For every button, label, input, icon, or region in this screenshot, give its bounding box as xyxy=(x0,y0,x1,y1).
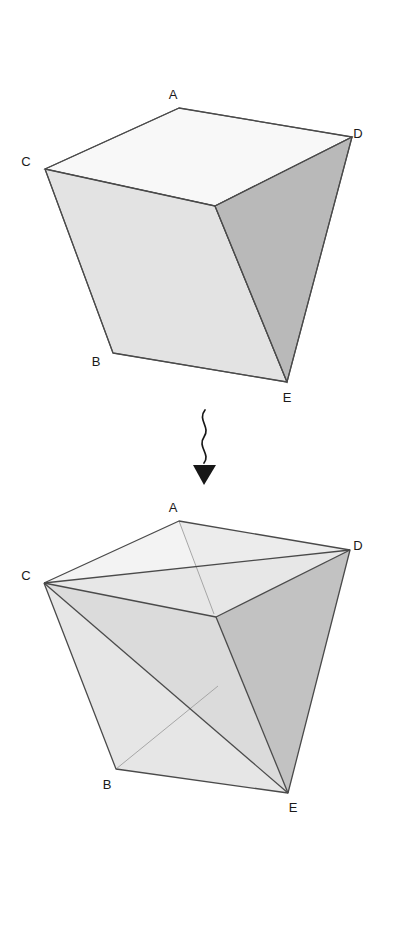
top-vertex-label-e: E xyxy=(283,390,292,405)
bottom-vertex-label-a: A xyxy=(169,500,178,515)
bottom-figure-group: A B C D E xyxy=(21,500,362,815)
arrowhead-down-icon xyxy=(193,465,216,485)
wavy-line-icon xyxy=(202,410,206,463)
top-vertex-label-b: B xyxy=(92,354,101,369)
top-figure-group: A B C D E xyxy=(21,87,362,405)
geometry-illustration: A B C D E xyxy=(0,0,408,945)
bottom-vertex-label-c: C xyxy=(21,568,30,583)
bottom-vertex-label-d: D xyxy=(353,538,362,553)
figure-canvas: A B C D E xyxy=(0,0,408,945)
connector-arrow-group xyxy=(193,410,216,485)
bottom-vertex-label-b: B xyxy=(103,777,112,792)
top-vertex-label-c: C xyxy=(21,154,30,169)
bottom-vertex-label-e: E xyxy=(289,800,298,815)
top-vertex-label-a: A xyxy=(169,87,178,102)
top-vertex-label-d: D xyxy=(353,126,362,141)
